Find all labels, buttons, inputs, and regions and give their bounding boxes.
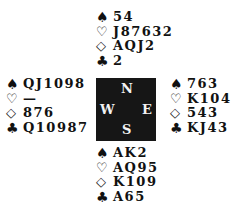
west-hearts-cards: — (23, 92, 38, 107)
club-icon: ♣ (170, 121, 187, 136)
east-diamonds-cards: 543 (187, 106, 219, 121)
spade-icon: ♠ (96, 10, 113, 25)
south-hearts: ♡AQ95 (96, 161, 159, 176)
heart-icon: ♡ (6, 92, 23, 107)
west-hearts: ♡— (6, 92, 89, 107)
compass-south: S (122, 122, 131, 137)
west-clubs-cards: Q10987 (23, 121, 89, 136)
east-diamonds: ◇543 (170, 106, 231, 121)
north-clubs: ♣2 (96, 54, 173, 69)
east-hearts-cards: K104 (187, 92, 231, 107)
north-hearts: ♡J87632 (96, 25, 173, 40)
west-spades: ♠QJ1098 (6, 77, 89, 92)
south-clubs-cards: A65 (113, 190, 146, 205)
south-hearts-cards: AQ95 (113, 161, 159, 176)
west-diamonds-cards: 876 (23, 106, 55, 121)
heart-icon: ♡ (96, 25, 113, 40)
south-clubs: ♣A65 (96, 190, 159, 205)
club-icon: ♣ (6, 121, 23, 136)
heart-icon: ♡ (170, 92, 187, 107)
west-clubs: ♣Q10987 (6, 121, 89, 136)
compass-west: W (100, 102, 115, 117)
heart-icon: ♡ (96, 161, 113, 176)
compass-east: E (142, 102, 152, 117)
spade-icon: ♠ (96, 146, 113, 161)
north-hearts-cards: J87632 (113, 25, 173, 40)
south-spades-cards: AK2 (113, 146, 148, 161)
diamond-icon: ◇ (96, 175, 113, 190)
south-diamonds-cards: K109 (113, 175, 157, 190)
north-spades: ♠54 (96, 10, 173, 25)
spade-icon: ♠ (6, 77, 23, 92)
east-clubs-cards: KJ43 (187, 121, 229, 136)
east-hearts: ♡K104 (170, 92, 231, 107)
west-hand: ♠QJ1098 ♡— ◇876 ♣Q10987 (6, 77, 89, 135)
north-diamonds: ◇AQJ2 (96, 39, 173, 54)
south-hand: ♠AK2 ♡AQ95 ◇K109 ♣A65 (96, 146, 159, 204)
diamond-icon: ◇ (170, 106, 187, 121)
north-diamonds-cards: AQJ2 (113, 39, 156, 54)
east-clubs: ♣KJ43 (170, 121, 231, 136)
spade-icon: ♠ (170, 77, 187, 92)
east-spades: ♠763 (170, 77, 231, 92)
club-icon: ♣ (96, 190, 113, 205)
south-diamonds: ◇K109 (96, 175, 159, 190)
east-spades-cards: 763 (187, 77, 219, 92)
west-spades-cards: QJ1098 (23, 77, 86, 92)
compass-north: N (121, 81, 133, 96)
diamond-icon: ◇ (6, 106, 23, 121)
compass-table: N W E S (96, 78, 156, 141)
north-clubs-cards: 2 (113, 54, 124, 69)
south-spades: ♠AK2 (96, 146, 159, 161)
north-spades-cards: 54 (113, 10, 134, 25)
north-hand: ♠54 ♡J87632 ◇AQJ2 ♣2 (96, 10, 173, 68)
east-hand: ♠763 ♡K104 ◇543 ♣KJ43 (170, 77, 231, 135)
diamond-icon: ◇ (96, 39, 113, 54)
west-diamonds: ◇876 (6, 106, 89, 121)
club-icon: ♣ (96, 54, 113, 69)
